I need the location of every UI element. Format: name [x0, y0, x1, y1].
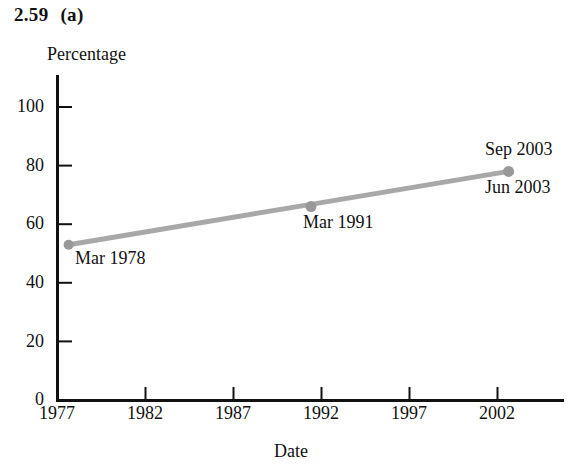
- y-tick-label-60: 60: [0, 213, 44, 234]
- x-tick-label-1992: 1992: [286, 403, 356, 424]
- series-line-percentage: [69, 171, 509, 244]
- y-tick-label-20: 20: [0, 331, 44, 352]
- data-point-mar-1991: [306, 201, 317, 212]
- x-tick-label-1997: 1997: [374, 403, 444, 424]
- x-tick-marks: [146, 387, 498, 399]
- x-tick-label-1982: 1982: [110, 403, 180, 424]
- x-tick-label-2002: 2002: [462, 403, 532, 424]
- y-tick-label-80: 80: [0, 155, 44, 176]
- plot-area: [0, 0, 582, 472]
- x-tick-label-1987: 1987: [198, 403, 268, 424]
- x-tick-label-1977: 1977: [22, 403, 92, 424]
- annotation-sep-2003: Sep 2003: [485, 139, 553, 160]
- x-axis-title: Date: [0, 441, 582, 462]
- annotation-mar-1978: Mar 1978: [75, 248, 146, 269]
- annotation-jun-2003: Jun 2003: [485, 177, 551, 198]
- y-tick-marks: [59, 107, 72, 341]
- y-tick-label-100: 100: [0, 96, 44, 117]
- annotation-mar-1991: Mar 1991: [303, 212, 374, 233]
- y-tick-label-40: 40: [0, 272, 44, 293]
- data-point-jun-sep-2003: [503, 166, 514, 177]
- data-point-mar-1978: [64, 240, 74, 250]
- figure-chart-2-59a: 2.59(a) Percentage 100 80: [0, 0, 582, 472]
